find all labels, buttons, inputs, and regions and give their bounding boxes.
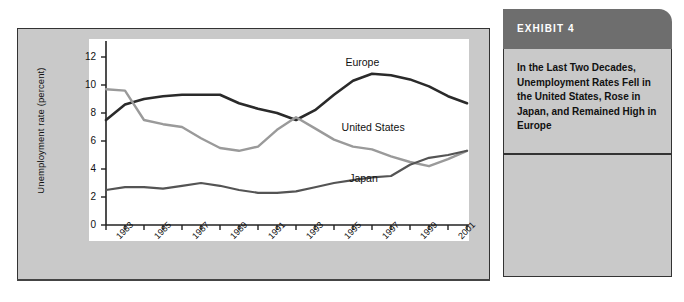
y-tick-label: 6 [74, 135, 96, 146]
exhibit-caption: In the Last Two Decades, Unemployment Ra… [517, 61, 657, 134]
y-tick-label: 10 [74, 79, 96, 90]
y-tick-label: 0 [74, 219, 96, 230]
series-label-europe: Europe [345, 56, 379, 68]
series-label-united-states: United States [342, 121, 405, 133]
bottom-rule [17, 279, 490, 281]
exhibit-body: In the Last Two Decades, Unemployment Ra… [503, 49, 672, 154]
series-line-japan [106, 151, 467, 193]
exhibit-header-label: EXHIBIT 4 [517, 23, 575, 34]
series-line-united-states [106, 89, 467, 166]
plot-area [89, 39, 469, 241]
y-tick-label: 2 [74, 191, 96, 202]
exhibit-lower-panel [503, 154, 672, 277]
series-line-europe [106, 74, 467, 120]
series-label-japan: Japan [349, 172, 378, 184]
y-tick-label: 12 [74, 51, 96, 62]
exhibit-header: EXHIBIT 4 [503, 9, 672, 49]
y-tick-label: 4 [74, 163, 96, 174]
y-tick-label: 8 [74, 107, 96, 118]
chart-panel: Unemployment rate (percent) 024681012 19… [17, 28, 490, 280]
line-chart-svg [89, 39, 469, 241]
y-axis-title: Unemployment rate (percent) [35, 31, 46, 231]
exhibit-panel: EXHIBIT 4 In the Last Two Decades, Unemp… [503, 9, 672, 277]
